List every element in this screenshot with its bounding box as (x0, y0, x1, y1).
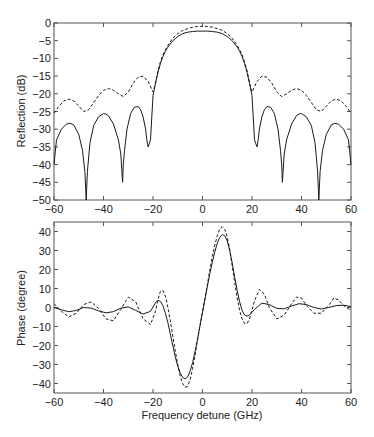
reflection-axis-ticks: −60−40−2002040600−5−10−15−20−25−30−35−40… (32, 17, 357, 215)
phase-x-tick-label: −20 (144, 396, 163, 408)
phase-x-tick-label: 20 (246, 396, 258, 408)
reflection-y-tick-label: −50 (32, 194, 51, 206)
phase-y-tick-label: −30 (32, 359, 51, 371)
phase-y-tick-label: 30 (39, 245, 51, 257)
reflection-dashed-curve (54, 26, 351, 113)
reflection-plot-frame (54, 23, 351, 200)
phase-y-tick-label: 20 (39, 264, 51, 276)
reflection-y-tick-label: −40 (32, 159, 51, 171)
phase-y-tick-label: −20 (32, 340, 51, 352)
reflection-x-tick-label: −40 (94, 203, 113, 215)
reflection-y-tick-label: 0 (45, 17, 51, 29)
phase-y-tick-label: 0 (45, 302, 51, 314)
reflection-y-tick-label: −20 (32, 88, 51, 100)
reflection-y-tick-label: −35 (32, 141, 51, 153)
reflection-x-tick-label: −20 (144, 203, 163, 215)
reflection-y-tick-label: −15 (32, 70, 51, 82)
reflection-y-axis-label: Reflection (dB) (15, 75, 27, 148)
phase-y-tick-label: −10 (32, 321, 51, 333)
phase-y-axis-label: Phase (degree) (15, 270, 27, 346)
reflection-x-tick-label: 20 (246, 203, 258, 215)
phase-x-tick-label: 40 (295, 396, 307, 408)
reflection-x-tick-label: 40 (295, 203, 307, 215)
chart-figure: −60−40−2002040600−5−10−15−20−25−30−35−40… (0, 0, 374, 437)
reflection-solid-curve (54, 31, 351, 200)
phase-dashed-curve (54, 227, 351, 387)
reflection-y-tick-label: −45 (32, 176, 51, 188)
phase-y-tick-label: 10 (39, 283, 51, 295)
phase-x-axis-label: Frequency detune (GHz) (141, 409, 262, 421)
reflection-x-tick-label: 60 (345, 203, 357, 215)
reflection-curves (54, 26, 351, 200)
phase-curves (54, 227, 351, 387)
phase-x-tick-label: −60 (45, 396, 64, 408)
phase-plot-frame (54, 222, 351, 393)
phase-y-tick-label: −40 (32, 378, 51, 390)
reflection-y-tick-label: −25 (32, 106, 51, 118)
phase-plot: −60−40−200204060403020100−10−20−30−40 Ph… (15, 222, 357, 421)
reflection-y-tick-label: −10 (32, 52, 51, 64)
phase-axis-ticks: −60−40−200204060403020100−10−20−30−40 (32, 222, 357, 408)
phase-y-tick-label: 40 (39, 226, 51, 238)
phase-x-tick-label: 60 (345, 396, 357, 408)
reflection-x-tick-label: 0 (199, 203, 205, 215)
phase-solid-curve (54, 235, 351, 379)
phase-x-tick-label: 0 (199, 396, 205, 408)
reflection-plot: −60−40−2002040600−5−10−15−20−25−30−35−40… (15, 17, 357, 215)
reflection-y-tick-label: −30 (32, 123, 51, 135)
phase-x-tick-label: −40 (94, 396, 113, 408)
reflection-y-tick-label: −5 (38, 35, 51, 47)
